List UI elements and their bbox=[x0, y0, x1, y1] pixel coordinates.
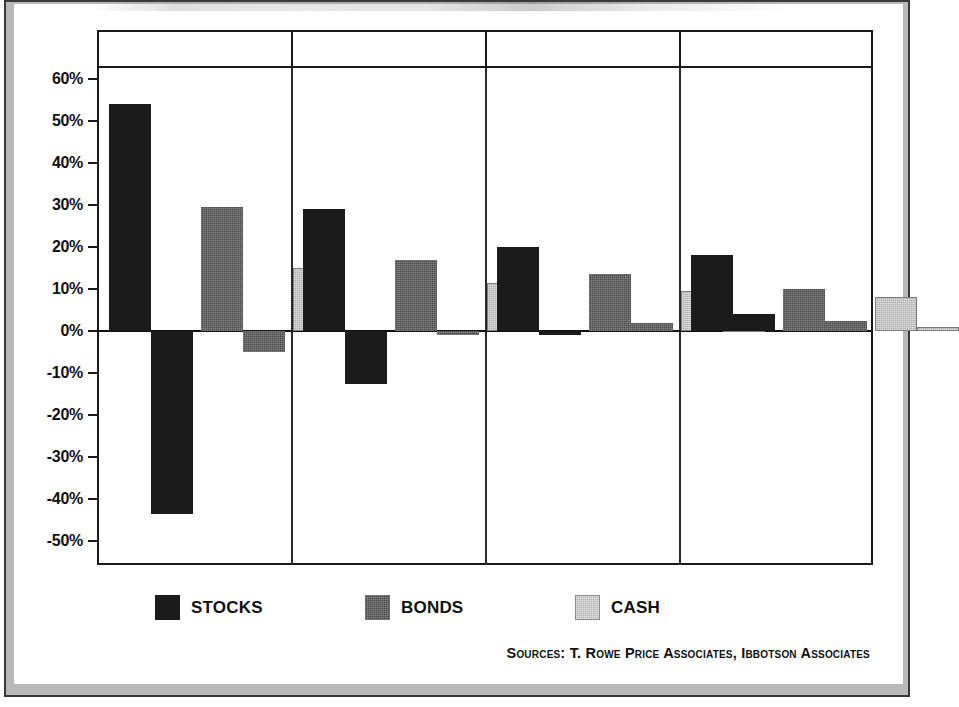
y-tick-1 bbox=[88, 120, 97, 122]
y-tick-label-4: 20% bbox=[9, 238, 83, 256]
y-tick-0 bbox=[88, 78, 97, 80]
bar-p1-stocks-worst bbox=[151, 331, 193, 514]
legend-swatch-stocks bbox=[155, 595, 180, 620]
bar-p4-stocks-worst bbox=[733, 314, 775, 331]
bar-p3-bonds-worst bbox=[631, 323, 673, 331]
y-tick-label-0: 60% bbox=[9, 70, 83, 88]
y-tick-4 bbox=[88, 246, 97, 248]
chart-legend: STOCKSBONDSCASH bbox=[97, 595, 873, 627]
legend-label-cash: CASH bbox=[611, 598, 660, 618]
header-divider-3 bbox=[679, 30, 681, 68]
bar-p2-bonds-best bbox=[395, 260, 437, 331]
y-tick-3 bbox=[88, 204, 97, 206]
y-tick-11 bbox=[88, 540, 97, 542]
legend-swatch-cash bbox=[575, 595, 600, 620]
bar-p2-stocks-best bbox=[303, 209, 345, 331]
y-tick-5 bbox=[88, 288, 97, 290]
bar-p4-bonds-best bbox=[783, 289, 825, 331]
y-tick-label-10: -40% bbox=[9, 490, 83, 508]
legend-item-bonds: BONDS bbox=[365, 595, 463, 620]
legend-item-stocks: STOCKS bbox=[155, 595, 263, 620]
bar-p4-cash-worst bbox=[917, 327, 959, 331]
y-tick-8 bbox=[88, 414, 97, 416]
bar-p2-bonds-worst bbox=[437, 331, 479, 335]
header-divider-2 bbox=[485, 30, 487, 68]
bar-p4-stocks-best bbox=[691, 255, 733, 331]
y-tick-label-2: 40% bbox=[9, 154, 83, 172]
bar-p2-stocks-worst bbox=[345, 331, 387, 384]
y-tick-label-9: -30% bbox=[9, 448, 83, 466]
y-tick-label-5: 10% bbox=[9, 280, 83, 298]
bar-p3-stocks-worst bbox=[539, 331, 581, 335]
bar-p4-cash-best bbox=[875, 297, 917, 331]
y-tick-label-6: 0% bbox=[9, 322, 83, 340]
y-tick-9 bbox=[88, 456, 97, 458]
y-tick-label-8: -20% bbox=[9, 406, 83, 424]
legend-label-bonds: BONDS bbox=[401, 598, 463, 618]
y-tick-7 bbox=[88, 372, 97, 374]
y-tick-6 bbox=[88, 330, 97, 332]
y-tick-label-7: -10% bbox=[9, 364, 83, 382]
y-tick-label-11: -50% bbox=[9, 532, 83, 550]
bar-p3-stocks-best bbox=[497, 247, 539, 331]
bar-p1-stocks-best bbox=[109, 104, 151, 331]
header-divider-1 bbox=[291, 30, 293, 68]
bar-p3-bonds-best bbox=[589, 274, 631, 331]
bar-p1-bonds-best bbox=[201, 207, 243, 331]
legend-item-cash: CASH bbox=[575, 595, 660, 620]
bar-p1-bonds-worst bbox=[243, 331, 285, 352]
legend-label-stocks: STOCKS bbox=[191, 598, 263, 618]
legend-swatch-bonds bbox=[365, 595, 390, 620]
y-tick-2 bbox=[88, 162, 97, 164]
source-note: Sources: T. Rowe Price Associates, Ibbot… bbox=[507, 645, 870, 661]
y-tick-label-1: 50% bbox=[9, 112, 83, 130]
y-tick-label-3: 30% bbox=[9, 196, 83, 214]
y-tick-10 bbox=[88, 498, 97, 500]
bar-p4-bonds-worst bbox=[825, 321, 867, 332]
